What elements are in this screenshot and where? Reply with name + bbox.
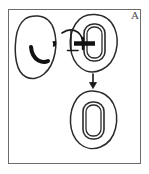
left-tissue-blob bbox=[15, 16, 56, 79]
figure-illustration bbox=[0, 0, 149, 174]
left-blob-outline bbox=[15, 16, 56, 79]
lower-tissue-blob bbox=[70, 91, 116, 149]
arrow-head bbox=[90, 83, 97, 89]
left-blob-lesion bbox=[31, 47, 48, 62]
left-blob-marker bbox=[53, 42, 56, 46]
figure-panel: A bbox=[0, 0, 149, 174]
upper-tissue-blob bbox=[62, 14, 117, 71]
lower-implant-inner bbox=[86, 105, 101, 136]
lower-blob-outline bbox=[70, 91, 116, 149]
panel-label: A bbox=[131, 10, 139, 21]
transition-arrow bbox=[90, 74, 97, 89]
delivery-needle bbox=[62, 30, 95, 50]
